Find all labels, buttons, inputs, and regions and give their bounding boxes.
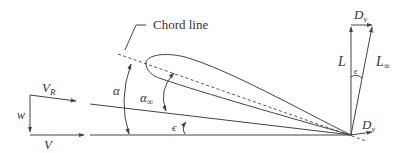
force-diagram: ϵ L L∞ Dv Dv xyxy=(337,7,390,135)
dv-bottom-label: Dv xyxy=(361,117,375,134)
dv-bottom-arrow xyxy=(351,132,372,135)
dv-top-label: Dv xyxy=(353,7,367,24)
v-label: V xyxy=(44,137,54,152)
alpha-label: α xyxy=(113,83,121,98)
chord-leader xyxy=(125,25,146,50)
lift-inf-label: L∞ xyxy=(375,54,390,71)
epsilon-arc xyxy=(183,122,186,134)
alpha-arc xyxy=(124,64,131,134)
epsilon-force-label: ϵ xyxy=(354,66,358,76)
lift-label: L xyxy=(337,54,346,69)
alpha-inf-label: α∞ xyxy=(140,90,153,107)
velocity-triangle: VR w V xyxy=(17,80,84,152)
vr-label: VR xyxy=(42,80,56,97)
relative-wind-line xyxy=(90,104,352,135)
w-label: w xyxy=(17,108,25,122)
alpha-inf-arc xyxy=(163,73,174,111)
chord-line xyxy=(118,54,366,141)
airfoil-diagram: VR w V Chord line α α∞ ϵ ϵ L L∞ Dv Dv xyxy=(0,0,401,153)
chord-line-label: Chord line xyxy=(153,17,208,32)
epsilon-label: ϵ xyxy=(172,121,177,133)
